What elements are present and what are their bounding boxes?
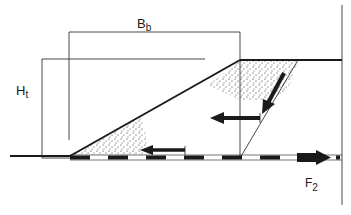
stipple-crest-zone (208, 61, 298, 100)
height-label: Ht (16, 83, 28, 100)
arrow-horizontal-upper (210, 112, 260, 124)
force-label: F2 (305, 176, 318, 193)
width-dimension-bracket (69, 32, 240, 158)
arrow-tension-F2 (297, 150, 331, 165)
embankment-slope (70, 60, 240, 156)
width-label: Bb (137, 16, 152, 33)
embankment-diagram: Bb Ht F2 (0, 0, 351, 215)
